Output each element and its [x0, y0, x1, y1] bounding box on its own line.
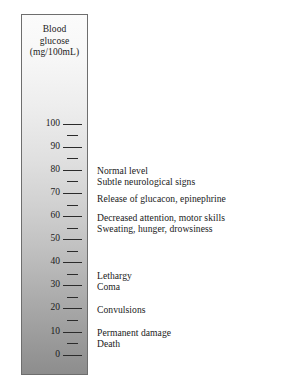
- tick-mark: [63, 285, 82, 286]
- tick-mark: [67, 297, 78, 298]
- tick-mark: [63, 216, 82, 217]
- annotation-text: Decreased attention, motor skills: [97, 212, 225, 223]
- tick-mark: [67, 205, 78, 206]
- tick-mark: [63, 332, 82, 333]
- tick-mark: [67, 158, 78, 159]
- tick-label: 30: [51, 279, 61, 290]
- axis-title-line-1: Blood: [21, 24, 88, 36]
- tick-mark: [63, 239, 82, 240]
- annotation-text: Death: [97, 338, 120, 349]
- tick-label: 70: [51, 187, 61, 198]
- tick-mark: [67, 274, 78, 275]
- tick-mark: [67, 135, 78, 136]
- annotation-text: Convulsions: [97, 304, 146, 315]
- axis-title-line-3: (mg/100mL): [21, 47, 88, 59]
- tick-label: 50: [51, 233, 61, 244]
- tick-mark: [63, 193, 82, 194]
- tick-mark: [63, 308, 82, 309]
- tick-label: 20: [51, 302, 61, 313]
- tick-mark: [63, 170, 82, 171]
- tick-mark: [67, 320, 78, 321]
- tick-mark: [63, 124, 82, 125]
- annotation-text: Lethargy: [97, 270, 132, 281]
- blood-glucose-scale-figure: Blood glucose (mg/100mL) 100908070605040…: [0, 0, 290, 385]
- tick-label: 100: [46, 118, 60, 129]
- tick-label: 10: [51, 326, 61, 337]
- annotation-text: Normal level: [97, 165, 148, 176]
- annotation-text: Subtle neurological signs: [97, 176, 195, 187]
- tick-mark: [63, 147, 82, 148]
- tick-mark: [67, 343, 78, 344]
- axis-title-line-2: glucose: [21, 36, 88, 48]
- annotation-text: Release of glucacon, epinephrine: [97, 193, 226, 204]
- tick-mark: [67, 181, 78, 182]
- axis-title: Blood glucose (mg/100mL): [21, 24, 88, 59]
- tick-mark: [63, 355, 82, 356]
- tick-mark: [67, 228, 78, 229]
- tick-label: 40: [51, 256, 61, 267]
- tick-label: 60: [51, 210, 61, 221]
- tick-label: 90: [51, 141, 61, 152]
- tick-label: 80: [51, 164, 61, 175]
- annotation-text: Coma: [97, 281, 120, 292]
- annotation-text: Sweating, hunger, drowsiness: [97, 223, 213, 234]
- annotation-text: Permanent damage: [97, 327, 171, 338]
- tick-label: 0: [55, 349, 60, 360]
- tick-mark: [63, 262, 82, 263]
- tick-mark: [67, 251, 78, 252]
